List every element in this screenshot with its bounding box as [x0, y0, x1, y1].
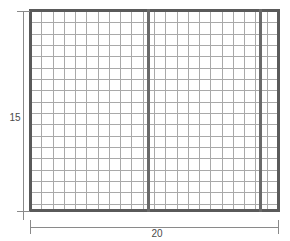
diagram-canvas: 15 20: [0, 0, 290, 241]
interior-post-1: [147, 9, 150, 212]
height-dimension-line: [23, 11, 24, 212]
height-extension-tick: [23, 206, 24, 220]
height-dimension-label: 15: [8, 110, 22, 125]
panel-rail-bottom: [30, 209, 280, 212]
width-dimension-tick-left: [30, 220, 31, 234]
width-dimension-label: 20: [144, 228, 170, 239]
height-dimension-tick-top: [17, 11, 30, 12]
panel-rail-left: [29, 9, 32, 212]
mesh-panel: [30, 11, 278, 211]
panel-rail-top: [30, 9, 280, 12]
interior-post-2: [259, 9, 262, 212]
panel-rail-right: [277, 9, 280, 212]
width-dimension-tick-right: [278, 220, 279, 234]
